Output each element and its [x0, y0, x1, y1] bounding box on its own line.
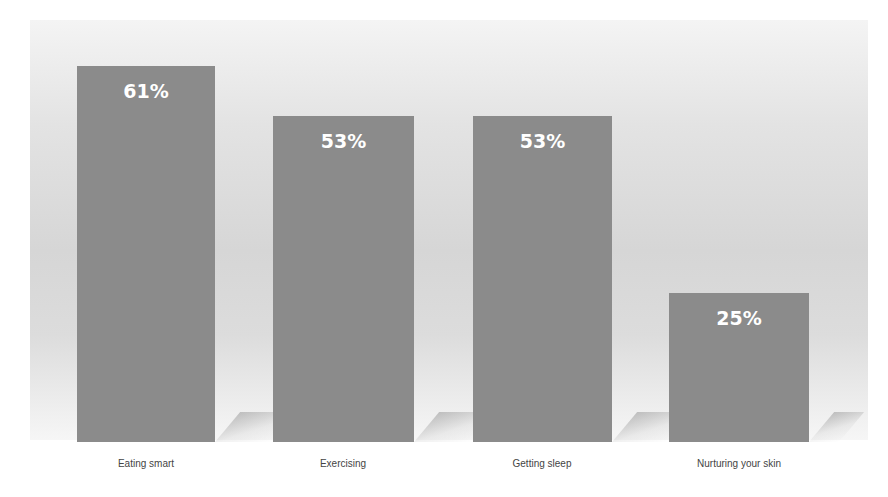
bar-value-label: 53%: [273, 130, 414, 152]
x-axis-label: Eating smart: [46, 458, 246, 469]
x-axis-label: Nurturing your skin: [639, 458, 839, 469]
bar-getting-sleep: 53%: [473, 116, 612, 442]
bar-value-label: 53%: [473, 130, 612, 152]
x-axis-label: Exercising: [243, 458, 443, 469]
bar-nurturing-skin: 25%: [669, 293, 809, 442]
x-axis-label: Getting sleep: [442, 458, 642, 469]
bar-exercising: 53%: [273, 116, 414, 442]
bar-eating-smart: 61%: [77, 66, 215, 442]
bar-value-label: 61%: [77, 80, 215, 102]
bar-value-label: 25%: [669, 307, 809, 329]
